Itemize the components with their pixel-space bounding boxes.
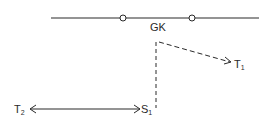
- diagonal-dashed-line: [159, 42, 230, 62]
- label-gk-text: GK: [150, 21, 166, 33]
- label-s1-subscript: 1: [148, 109, 152, 116]
- diagram-canvas: [0, 0, 273, 130]
- label-t2-subscript: 2: [21, 109, 25, 116]
- label-gk: GK: [150, 22, 166, 33]
- label-s1: S1: [141, 104, 152, 116]
- label-t1: T1: [234, 59, 245, 71]
- label-t1-text: T: [234, 58, 241, 70]
- circle-node-right: [189, 15, 195, 21]
- label-t1-subscript: 1: [241, 64, 245, 71]
- label-t2: T2: [14, 104, 25, 116]
- circle-node-left: [120, 15, 126, 21]
- label-t2-text: T: [14, 103, 21, 115]
